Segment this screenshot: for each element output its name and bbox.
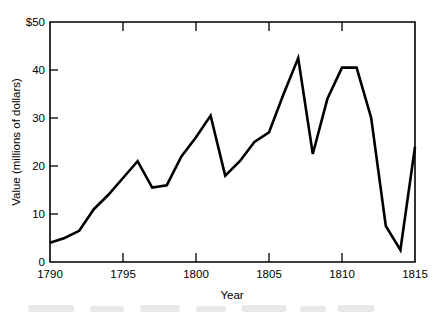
y-axis-title: Value (millions of dollars): [10, 78, 22, 206]
x-tick-label-1800: 1800: [183, 268, 209, 280]
data-series-line: [50, 58, 415, 250]
y-tick-label-40: 40: [32, 64, 45, 76]
y-tick-labels: $50 40 30 20 10 0: [26, 16, 45, 268]
x-tick-label-1810: 1810: [329, 268, 355, 280]
x-axis-title: Year: [220, 289, 243, 301]
x-tick-label-1795: 1795: [110, 268, 136, 280]
x-tick-label-1815: 1815: [402, 268, 428, 280]
x-axis-ticks: [123, 253, 342, 262]
x-tick-label-1790: 1790: [37, 268, 63, 280]
plot-frame: [50, 22, 415, 262]
y-tick-label-0: 0: [39, 256, 45, 268]
y-tick-label-20: 20: [32, 160, 45, 172]
y-tick-label-10: 10: [32, 208, 45, 220]
plot-border: [50, 22, 415, 262]
line-chart-canvas: $50 40 30 20 10 0 1790 1795 1800 1805 18…: [0, 0, 442, 319]
x-axis-top-ticks: [123, 22, 342, 31]
chart-figure: $50 40 30 20 10 0 1790 1795 1800 1805 18…: [0, 0, 442, 319]
x-tick-labels: 1790 1795 1800 1805 1810 1815: [37, 268, 428, 280]
y-tick-label-30: 30: [32, 112, 45, 124]
y-axis-ticks: [50, 70, 58, 214]
x-tick-label-1805: 1805: [256, 268, 282, 280]
y-tick-label-50: $50: [26, 16, 45, 28]
